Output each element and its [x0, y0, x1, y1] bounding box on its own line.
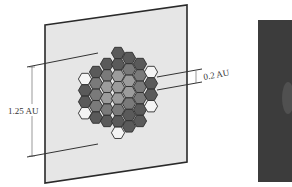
hex-segment-dark — [133, 115, 146, 126]
hex-segment-mid — [122, 98, 135, 109]
hex-segment-light — [122, 87, 135, 98]
hex-segment-mid — [122, 64, 135, 75]
hex-segment-dark — [122, 52, 135, 63]
hex-segment-empty — [144, 101, 157, 112]
hex-segment-dark — [144, 89, 157, 100]
hex-segment-dark — [122, 121, 135, 132]
hex-segment-dark — [122, 109, 135, 120]
hex-segment-empty — [144, 66, 157, 77]
segment-label: 0.2 AU — [203, 68, 231, 82]
hex-segment-light — [122, 75, 135, 86]
aperture-label: 1.25 AU — [8, 106, 39, 116]
hex-segment-dark — [133, 58, 146, 69]
hex-segment-dark — [144, 78, 157, 89]
hex-segment-empty — [111, 127, 124, 138]
segmented-mirror-diagram: 1.25 AU 0.2 AU — [0, 0, 292, 187]
